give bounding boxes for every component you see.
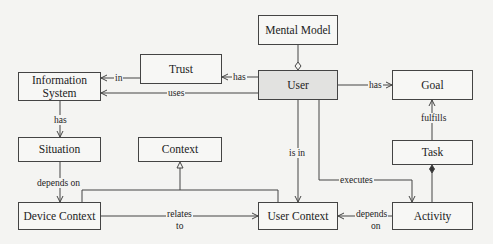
edge-label-on: on	[370, 221, 382, 231]
node-mental-model[interactable]: Mental Model	[258, 15, 338, 45]
node-task[interactable]: Task	[392, 140, 473, 165]
edge-label-executes: executes	[339, 175, 374, 185]
node-trust[interactable]: Trust	[140, 54, 222, 84]
aggregation-diamond	[295, 62, 301, 70]
node-user-context[interactable]: User Context	[258, 202, 338, 230]
edge-label-in: in	[114, 73, 123, 83]
composition-diamond	[430, 165, 435, 173]
edge-label-is-in: is in	[288, 148, 306, 158]
node-device-context[interactable]: Device Context	[18, 202, 101, 230]
edge-label-has-goal: has	[368, 80, 383, 90]
generalization-triangle	[177, 162, 183, 168]
edge-label-to: to	[175, 221, 184, 231]
node-goal[interactable]: Goal	[392, 70, 473, 100]
node-activity[interactable]: Activity	[392, 202, 473, 230]
node-context[interactable]: Context	[138, 137, 222, 162]
edge-label-depends: depends	[355, 209, 388, 219]
edge-generalization	[82, 190, 278, 202]
node-information-system[interactable]: Information System	[18, 72, 101, 101]
node-situation[interactable]: Situation	[18, 137, 101, 162]
edge-label-uses: uses	[167, 88, 185, 98]
node-user[interactable]: User	[258, 70, 338, 100]
edge-label-has-trust: has	[232, 72, 247, 82]
edge-label-depends-on: depends on	[36, 178, 81, 188]
edge-label-fulfills: fulfills	[420, 113, 447, 123]
edge-label-relates: relates	[166, 209, 193, 219]
edge-label-has-situation: has	[53, 115, 68, 125]
